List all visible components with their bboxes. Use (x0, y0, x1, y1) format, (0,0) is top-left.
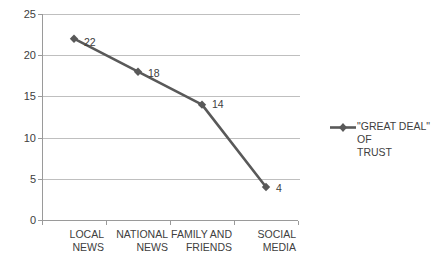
x-tick-1 (106, 221, 107, 225)
y-axis-tick-label: 15 (4, 91, 36, 102)
x-axis-category-label: NATIONAL NEWS (106, 228, 170, 272)
y-axis-labels: 25 20 15 10 5 0 (0, 0, 36, 276)
y-tick-10 (38, 138, 42, 139)
x-tick-3 (234, 221, 235, 225)
gridline-15 (42, 96, 300, 97)
legend: "GREAT DEAL" OF TRUST (330, 120, 434, 159)
legend-entry-label: "GREAT DEAL" OF TRUST (357, 120, 434, 159)
y-axis-tick-label: 10 (4, 133, 36, 144)
x-tick-0 (42, 221, 43, 225)
legend-line-marker-icon (330, 122, 356, 133)
y-axis-tick-label: 0 (4, 215, 36, 226)
y-axis-tick-label: 20 (4, 50, 36, 61)
y-tick-5 (38, 179, 42, 180)
x-axis-labels: LOCAL NEWS NATIONAL NEWS FAMILY AND FRIE… (42, 228, 298, 272)
gridline-5 (42, 179, 300, 180)
plot-area (42, 14, 300, 220)
y-tick-20 (38, 55, 42, 56)
data-label-local-news: 22 (84, 37, 96, 48)
x-tick-4 (298, 221, 299, 225)
gridline-20 (42, 55, 300, 56)
y-tick-15 (38, 96, 42, 97)
y-axis-line (42, 14, 43, 221)
y-axis-tick-label: 25 (4, 9, 36, 20)
x-axis-category-label: FAMILY AND FRIENDS (170, 228, 234, 272)
legend-label-line1: "GREAT DEAL" OF (357, 120, 430, 145)
gridline-10 (42, 138, 300, 139)
x-axis-category-label: LOCAL NEWS (42, 228, 106, 272)
data-label-social-media: 4 (276, 183, 282, 194)
gridline-25 (42, 14, 300, 15)
data-label-family-and-friends: 14 (212, 99, 224, 110)
legend-label-line2: TRUST (357, 146, 392, 158)
x-tick-2 (170, 221, 171, 225)
x-axis-category-label: SOCIAL MEDIA (234, 228, 298, 272)
line-chart: 25 20 15 10 5 0 22 18 14 4 LOCAL NEWS NA… (0, 0, 440, 276)
data-label-national-news: 18 (148, 68, 160, 79)
y-axis-tick-label: 5 (4, 174, 36, 185)
y-tick-25 (38, 14, 42, 15)
